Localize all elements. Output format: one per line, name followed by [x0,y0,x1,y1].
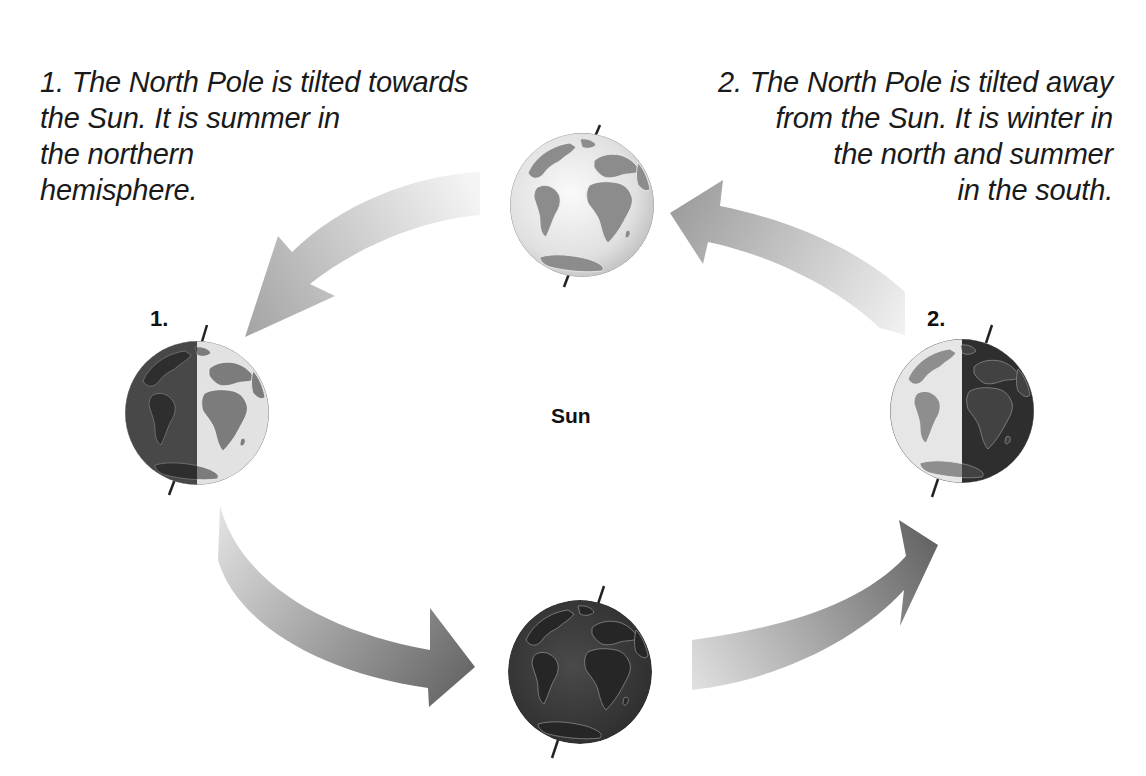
globe-right [890,325,1034,497]
axis-south [169,479,175,495]
globe-top [510,125,654,287]
orbit-arrow-left-to-bottom [218,506,475,707]
orbit-arrow-bottom-to-right [692,520,938,690]
caption-line: in the south. [718,172,1113,208]
caption-line: 1. The North Pole is tilted towards [40,64,468,100]
seasons-diagram: 1. The North Pole is tilted towards the … [0,0,1146,776]
caption-line: the northern [40,136,468,172]
axis-south [552,740,558,758]
caption-line: hemisphere. [40,172,468,208]
sun-label: Sun [551,404,591,428]
globe-bottom [508,586,652,758]
axis-south [932,479,938,497]
axis-north [598,586,604,604]
caption-north-tilted-towards: 1. The North Pole is tilted towards the … [40,64,468,208]
caption-line: from the Sun. It is winter in [718,100,1113,136]
caption-line: 2. The North Pole is tilted away [718,64,1113,100]
caption-north-tilted-away: 2. The North Pole is tilted away from th… [718,64,1113,208]
axis-north [986,325,992,343]
caption-line: the Sun. It is summer in [40,100,468,136]
globe-left [125,325,269,495]
globe-label-2: 2. [927,306,945,332]
globe-label-1: 1. [150,306,168,332]
caption-line: the north and summer [718,136,1113,172]
